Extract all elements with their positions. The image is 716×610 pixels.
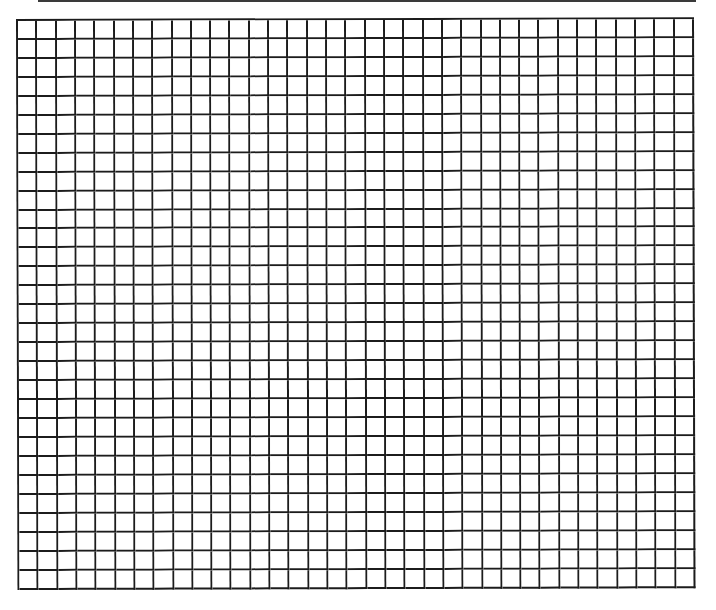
grid-cell xyxy=(173,115,192,134)
grid-cell xyxy=(598,209,617,228)
grid-cell xyxy=(57,97,76,116)
grid-cell xyxy=(443,228,462,247)
grid-cell xyxy=(385,115,404,134)
grid-cell xyxy=(404,20,423,39)
grid-cell xyxy=(540,342,559,361)
grid-cell xyxy=(405,191,424,210)
grid-cell xyxy=(18,173,37,192)
grid-cell xyxy=(637,285,656,304)
grid-cell xyxy=(637,379,656,398)
grid-cell xyxy=(212,456,231,475)
grid-cell xyxy=(520,114,539,133)
grid-cell xyxy=(135,343,154,362)
grid-cell xyxy=(366,229,385,248)
grid-cell xyxy=(270,456,289,475)
grid-cell xyxy=(269,115,288,134)
grid-cell xyxy=(270,248,289,267)
grid-cell xyxy=(38,457,57,476)
grid-cell xyxy=(521,285,540,304)
grid-cell xyxy=(173,21,192,40)
grid-cell xyxy=(39,552,58,571)
grid-cell xyxy=(386,532,405,551)
grid-cell xyxy=(270,475,289,494)
grid-cell xyxy=(289,229,308,248)
grid-cell xyxy=(251,475,270,494)
grid-cell xyxy=(443,171,462,190)
grid-cell xyxy=(347,191,366,210)
grid-cell xyxy=(97,551,116,570)
grid-cell xyxy=(328,210,347,229)
grid-cell xyxy=(540,133,559,152)
grid-cell xyxy=(444,418,463,437)
grid-cell xyxy=(116,551,135,570)
grid-cell xyxy=(636,114,655,133)
grid-cell xyxy=(95,78,114,97)
grid-cell xyxy=(637,550,656,569)
grid-cell xyxy=(96,343,115,362)
grid-cell xyxy=(270,551,289,570)
grid-cell xyxy=(212,191,231,210)
grid-cell xyxy=(269,96,288,115)
grid-cell xyxy=(598,361,617,380)
grid-cell xyxy=(19,514,38,533)
grid-cell xyxy=(463,190,482,209)
grid-cell xyxy=(637,493,656,512)
grid-cell xyxy=(76,78,95,97)
grid-cell xyxy=(58,419,77,438)
grid-cell xyxy=(444,475,463,494)
grid-cell xyxy=(213,551,232,570)
grid-cell xyxy=(231,172,250,191)
grid-cell xyxy=(463,361,482,380)
grid-cell xyxy=(501,247,520,266)
grid-cell xyxy=(560,569,579,588)
grid-cell xyxy=(193,400,212,419)
grid-cell xyxy=(617,209,636,228)
grid-cell xyxy=(192,191,211,210)
grid-cell xyxy=(173,324,192,343)
grid-cell xyxy=(385,77,404,96)
grid-cell xyxy=(134,248,153,267)
grid-cell xyxy=(211,134,230,153)
grid-cell xyxy=(77,305,96,324)
grid-cell xyxy=(250,39,269,58)
grid-cell xyxy=(134,59,153,78)
grid-cell xyxy=(617,114,636,133)
grid-cell xyxy=(57,116,76,135)
grid-cell xyxy=(174,551,193,570)
grid-cell xyxy=(96,210,115,229)
grid-cell xyxy=(367,494,386,513)
grid-cell xyxy=(135,419,154,438)
grid-cell xyxy=(560,342,579,361)
grid-cell xyxy=(211,115,230,134)
grid-cell xyxy=(540,285,559,304)
grid-cell xyxy=(57,191,76,210)
grid-cell xyxy=(288,39,307,58)
grid-cell xyxy=(96,495,115,514)
grid-cell xyxy=(308,229,327,248)
grid-cell xyxy=(424,96,443,115)
grid-cell xyxy=(425,551,444,570)
grid-cell xyxy=(38,267,57,286)
grid-cell xyxy=(115,21,134,40)
grid-cell xyxy=(386,342,405,361)
grid-cell xyxy=(135,457,154,476)
grid-cell xyxy=(482,39,501,58)
grid-cell xyxy=(328,342,347,361)
grid-cell xyxy=(96,324,115,343)
grid-cell xyxy=(462,20,481,39)
grid-cell xyxy=(366,247,385,266)
grid-cell xyxy=(96,267,115,286)
grid-cell xyxy=(212,229,231,248)
grid-cell xyxy=(327,153,346,172)
grid-cell xyxy=(347,134,366,153)
grid-cell xyxy=(386,399,405,418)
grid-cell xyxy=(154,324,173,343)
grid-cell xyxy=(385,210,404,229)
grid-cell xyxy=(38,210,57,229)
grid-cell xyxy=(559,228,578,247)
grid-cell xyxy=(348,532,367,551)
grid-cell xyxy=(540,209,559,228)
grid-cell xyxy=(309,380,328,399)
grid-cell xyxy=(96,134,115,153)
grid-cell xyxy=(327,39,346,58)
